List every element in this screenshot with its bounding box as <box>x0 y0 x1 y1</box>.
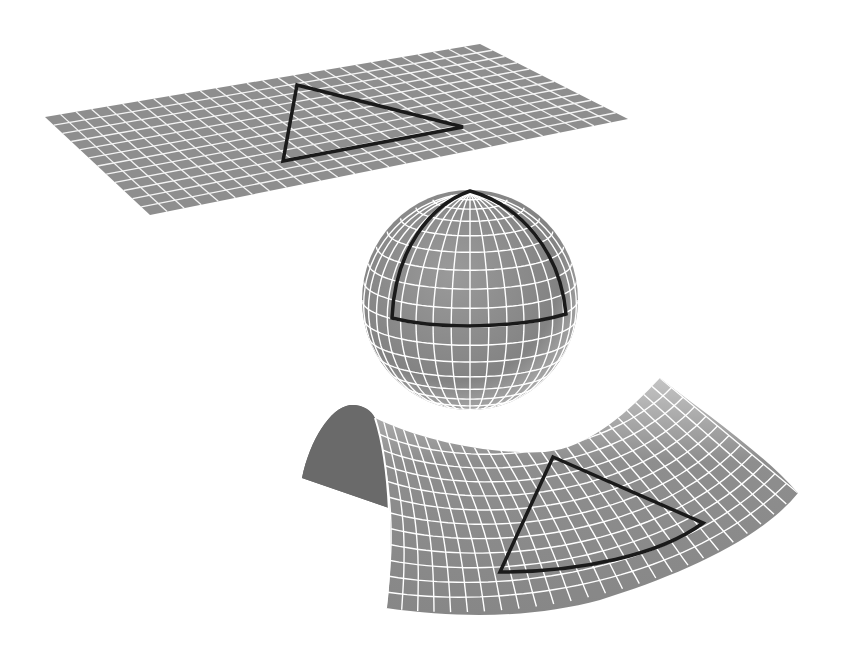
curvature-diagram <box>0 0 841 657</box>
sphere <box>362 190 578 410</box>
saddle-surface <box>302 378 798 615</box>
flat-plane <box>45 44 628 215</box>
